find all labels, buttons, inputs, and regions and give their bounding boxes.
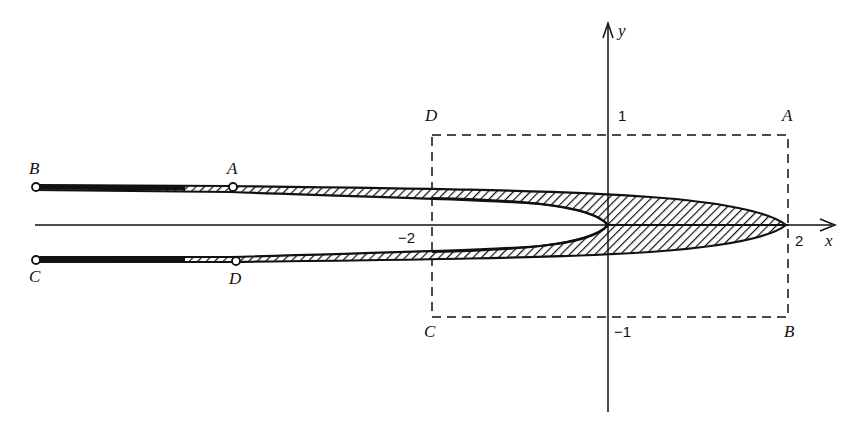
rect-corner-C: C: [424, 323, 435, 340]
rect-corner-D: D: [425, 107, 437, 124]
rect-corner-A: A: [782, 107, 792, 124]
tick-y-neg1: −1: [614, 324, 631, 339]
lower-solid-segment: [35, 259, 185, 260]
point-A-marker: [229, 183, 237, 191]
upper-solid-segment: [35, 187, 185, 188]
label-C-far: C: [29, 268, 40, 285]
tick-x-2: 2: [795, 233, 803, 248]
diagram-canvas: [0, 0, 868, 430]
point-D-marker: [232, 257, 240, 265]
rect-corner-B: B: [784, 323, 794, 340]
x-axis-label: x: [825, 232, 833, 249]
point-B-marker: [32, 183, 40, 191]
tick-y-1: 1: [618, 108, 626, 123]
upper-hatched-band: [35, 185, 786, 225]
tick-x-neg2: −2: [398, 230, 415, 245]
label-B-far: B: [29, 160, 39, 177]
point-C-marker: [32, 256, 40, 264]
label-D-near: D: [229, 270, 241, 287]
label-A-near: A: [227, 160, 237, 177]
y-axis-label: y: [618, 22, 626, 39]
